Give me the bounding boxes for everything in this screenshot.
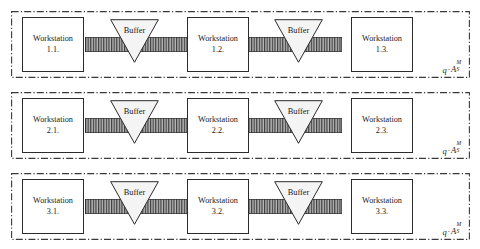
workstation-name: Workstation	[362, 115, 402, 125]
workstation-id: 2.2.	[212, 126, 224, 136]
triangle-down-icon	[110, 181, 159, 225]
workstation-id: 2.3.	[376, 126, 388, 136]
production-line-panel-2: Workstation 2.1. Workstation 2.2. Workst…	[11, 92, 470, 159]
workstation-name: Workstation	[33, 196, 73, 206]
buffer-triangle[interactable]: Buffer	[110, 181, 159, 225]
triangle-down-icon	[274, 100, 323, 144]
panel-capacity-label: q·AMS	[443, 226, 461, 237]
workstation-name: Workstation	[198, 196, 238, 206]
workstation-box[interactable]: Workstation 1.1.	[22, 17, 84, 72]
workstation-name: Workstation	[362, 196, 402, 206]
workstation-box[interactable]: Workstation 3.1.	[22, 179, 84, 234]
workstation-name: Workstation	[198, 34, 238, 44]
workstation-box[interactable]: Workstation 3.3.	[351, 179, 413, 234]
workstation-id: 3.1.	[47, 207, 59, 217]
workstation-box[interactable]: Workstation 1.3.	[351, 17, 413, 72]
label-coefficient: q	[443, 226, 447, 236]
triangle-down-icon	[274, 181, 323, 225]
workstation-id: 2.1.	[47, 126, 59, 136]
workstation-name: Workstation	[198, 115, 238, 125]
panel-capacity-label: q·AMS	[443, 64, 461, 75]
triangle-down-icon	[110, 19, 159, 63]
workstation-id: 3.2.	[212, 207, 224, 217]
workstation-box[interactable]: Workstation 2.1.	[22, 98, 84, 153]
workstation-id: 1.1.	[47, 45, 59, 55]
buffer-triangle[interactable]: Buffer	[274, 181, 323, 225]
buffer-triangle[interactable]: Buffer	[110, 100, 159, 144]
workstation-id: 1.2.	[212, 45, 224, 55]
label-coefficient: q	[443, 64, 447, 74]
triangle-down-icon	[274, 19, 323, 63]
workstation-name: Workstation	[33, 115, 73, 125]
buffer-triangle[interactable]: Buffer	[274, 100, 323, 144]
production-line-panel-1: Workstation 1.1. Workstation 1.2. Workst…	[11, 11, 470, 78]
workstation-name: Workstation	[362, 34, 402, 44]
production-line-panel-3: Workstation 3.1. Workstation 3.2. Workst…	[11, 173, 470, 240]
panel-capacity-label: q·AMS	[443, 145, 461, 156]
workstation-id: 3.3.	[376, 207, 388, 217]
workstation-id: 1.3.	[376, 45, 388, 55]
buffer-triangle[interactable]: Buffer	[274, 19, 323, 63]
workstation-box[interactable]: Workstation 2.2.	[187, 98, 249, 153]
workstation-box[interactable]: Workstation 2.3.	[351, 98, 413, 153]
label-coefficient: q	[443, 145, 447, 155]
buffer-triangle[interactable]: Buffer	[110, 19, 159, 63]
production-line-diagram: Workstation 1.1. Workstation 1.2. Workst…	[0, 0, 480, 249]
workstation-box[interactable]: Workstation 1.2.	[187, 17, 249, 72]
workstation-name: Workstation	[33, 34, 73, 44]
workstation-box[interactable]: Workstation 3.2.	[187, 179, 249, 234]
triangle-down-icon	[110, 100, 159, 144]
